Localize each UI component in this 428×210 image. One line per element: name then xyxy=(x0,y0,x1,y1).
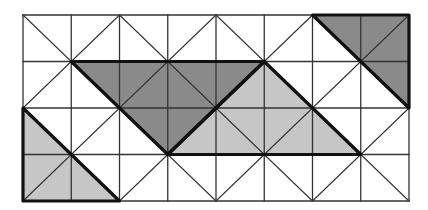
grid-diagonal-line xyxy=(216,15,264,62)
grid-diagonal-line xyxy=(313,155,361,202)
grid-diagonal-line xyxy=(120,155,168,202)
grid-diagonal-line xyxy=(168,155,216,202)
grid-diagonal-line xyxy=(120,15,168,62)
grid-diagonal-line xyxy=(71,15,119,62)
grid-diagonal-line xyxy=(361,155,409,202)
grid-diagonal-line xyxy=(313,62,361,109)
grid-diagonal-line xyxy=(23,62,71,109)
grid-diagonal-line xyxy=(264,155,312,202)
grid-diagonal-line xyxy=(23,15,71,62)
grid-diagonal-line xyxy=(168,15,216,62)
grid-diagonal-line xyxy=(264,15,312,62)
grid-diagram xyxy=(0,0,428,210)
grid-diagonal-line xyxy=(71,108,119,155)
grid-diagonal-line xyxy=(361,108,409,155)
grid-diagonal-line xyxy=(216,155,264,202)
